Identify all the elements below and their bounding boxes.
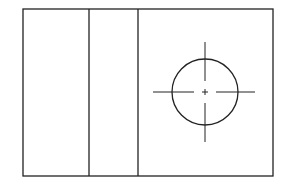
centerline-crosshair	[153, 42, 255, 142]
technical-drawing	[0, 0, 298, 186]
